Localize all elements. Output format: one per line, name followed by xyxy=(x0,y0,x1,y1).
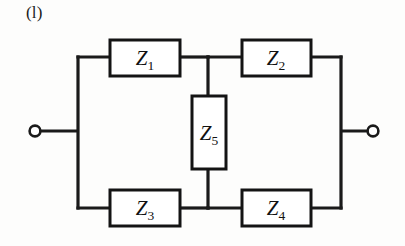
left-terminal-node[interactable] xyxy=(30,126,41,137)
component-z2[interactable]: Z2 xyxy=(242,40,311,76)
component-z1[interactable]: Z1 xyxy=(110,40,180,76)
circuit-schematic-canvas: Z1 Z2 Z5 Z3 Z4 xyxy=(0,0,405,246)
component-z3[interactable]: Z3 xyxy=(110,190,180,226)
right-terminal-node[interactable] xyxy=(368,126,379,137)
component-z5[interactable]: Z5 xyxy=(192,96,226,169)
component-z4[interactable]: Z4 xyxy=(242,190,311,226)
circuit-figure: (l) xyxy=(0,0,405,246)
